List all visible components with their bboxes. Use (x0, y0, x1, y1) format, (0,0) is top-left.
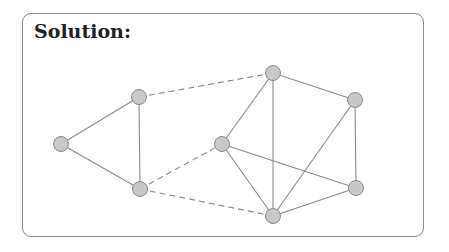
dashed-edge-C-H (140, 189, 273, 216)
node-E (266, 66, 281, 81)
node-B (132, 90, 147, 105)
edge-F-H (273, 100, 355, 216)
dashed-edge-B-E (139, 73, 273, 97)
node-D (215, 137, 230, 152)
graph-diagram (0, 0, 449, 252)
dashed-edge-C-D (140, 144, 222, 189)
edge-B-C (139, 97, 140, 189)
node-G (349, 181, 364, 196)
node-C (133, 182, 148, 197)
node-A (54, 137, 69, 152)
edge-F-G (355, 100, 356, 188)
edge-A-B (61, 97, 139, 144)
edge-D-G (222, 144, 356, 188)
edge-D-E (222, 73, 273, 144)
edge-H-G (273, 188, 356, 216)
node-F (348, 93, 363, 108)
node-H (266, 209, 281, 224)
edge-E-F (273, 73, 355, 100)
edge-D-H (222, 144, 273, 216)
edge-A-C (61, 144, 140, 189)
